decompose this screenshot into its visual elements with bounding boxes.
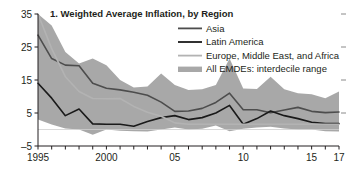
x-tick-label: 10 (238, 152, 250, 163)
y-tick-label: –5 (21, 141, 33, 152)
x-tick-label: 15 (306, 152, 318, 163)
legend-label: Latin America (206, 36, 264, 47)
x-tick-label: 05 (169, 152, 181, 163)
legend-label: Asia (206, 23, 225, 34)
y-tick-label: 25 (21, 42, 33, 53)
legend-swatch-band (178, 67, 202, 72)
chart-title: 1. Weighted Average Inflation, by Region (50, 8, 234, 19)
legend-label: Europe, Middle East, and Africa (206, 50, 340, 61)
x-tick-label: 17 (333, 152, 345, 163)
y-tick-label: 5 (26, 108, 32, 119)
inflation-line-chart: –55152535 1995200005101517 1. Weighted A… (0, 0, 351, 178)
y-tick-label: 15 (21, 75, 33, 86)
y-tick-label: 35 (21, 9, 33, 20)
legend-label: All EMDEs: interdecile range (206, 63, 327, 74)
x-tick-label: 1995 (27, 152, 50, 163)
x-tick-label: 2000 (95, 152, 118, 163)
chart-figure: –55152535 1995200005101517 1. Weighted A… (0, 0, 351, 178)
